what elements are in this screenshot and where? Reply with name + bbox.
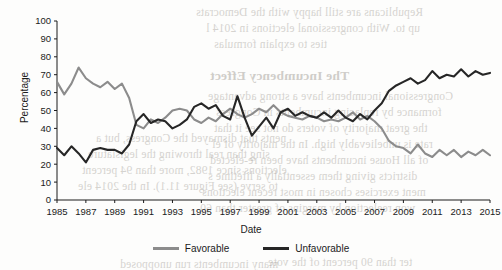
legend-swatch-unfavorable <box>263 247 289 250</box>
y-tick-label-30: 30 <box>40 141 51 152</box>
y-axis-title: Percentage <box>19 53 30 143</box>
y-tick-label-100: 100 <box>35 15 51 26</box>
x-tick-label-1985: 1985 <box>46 206 67 217</box>
x-tick-label-2015: 2015 <box>479 206 500 217</box>
y-tick-label-40: 40 <box>40 123 51 134</box>
x-tick-label-1991: 1991 <box>133 206 154 217</box>
x-tick-label-1993: 1993 <box>162 206 183 217</box>
y-tick-label-10: 10 <box>40 177 51 188</box>
x-tick-label-1999: 1999 <box>248 206 269 217</box>
y-tick-label-20: 20 <box>40 159 51 170</box>
legend-swatch-favorable <box>153 247 179 250</box>
x-tick-label-2011: 2011 <box>422 206 442 217</box>
y-tick-label-70: 70 <box>40 69 51 80</box>
x-tick-label-2003: 2003 <box>306 206 327 217</box>
chart-legend: FavorableUnfavorable <box>0 243 502 254</box>
y-tick-label-60: 60 <box>40 87 51 98</box>
legend-item-favorable: Favorable <box>153 243 229 254</box>
x-tick-label-1987: 1987 <box>75 206 96 217</box>
x-axis-title: Date <box>0 224 502 235</box>
x-tick-label-1995: 1995 <box>191 206 212 217</box>
x-tick-label-1989: 1989 <box>104 206 125 217</box>
y-tick-label-0: 0 <box>46 194 51 205</box>
x-tick-label-1997: 1997 <box>220 206 241 217</box>
y-tick-label-90: 90 <box>40 33 51 44</box>
x-tick-label-2007: 2007 <box>364 206 385 217</box>
x-tick-label-2001: 2001 <box>277 206 298 217</box>
x-tick-label-2009: 2009 <box>393 206 414 217</box>
legend-label-unfavorable: Unfavorable <box>295 243 349 254</box>
chart-container: 0102030405060708090100198519871989199119… <box>0 0 502 270</box>
x-tick-label-2005: 2005 <box>335 206 356 217</box>
legend-item-unfavorable: Unfavorable <box>263 243 349 254</box>
x-tick-label-2013: 2013 <box>451 206 472 217</box>
legend-label-favorable: Favorable <box>185 243 229 254</box>
y-tick-label-50: 50 <box>40 105 51 116</box>
y-tick-label-80: 80 <box>40 51 51 62</box>
